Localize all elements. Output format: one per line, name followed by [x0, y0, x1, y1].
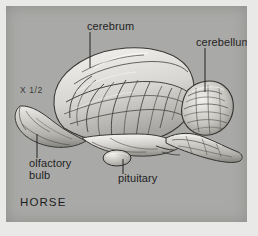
- label-cerebellum: cerebellum: [196, 36, 247, 49]
- figure-root: cerebrum cerebellum olfactory bulb pitui…: [0, 0, 258, 236]
- figure-caption: HORSE: [20, 196, 66, 209]
- label-cerebrum: cerebrum: [87, 20, 134, 33]
- label-olfactory-bulb-line1: olfactory: [29, 157, 71, 170]
- cerebellum-shape: [182, 81, 234, 135]
- pituitary-shape: [103, 150, 131, 166]
- illustration-panel: cerebrum cerebellum olfactory bulb pitui…: [6, 6, 247, 222]
- scale-marker: X 1/2: [20, 84, 43, 97]
- label-olfactory-bulb-line2: bulb: [29, 169, 50, 182]
- label-pituitary: pituitary: [118, 172, 157, 185]
- cerebrum-shape: [54, 48, 194, 144]
